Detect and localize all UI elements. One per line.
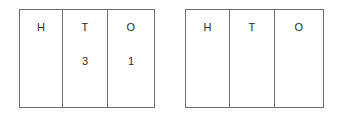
place-value-column-tens[interactable]: T 3 (63, 10, 108, 107)
place-value-column-ones[interactable]: O 1 (108, 10, 154, 107)
column-header-hundreds: H (37, 21, 45, 34)
column-header-tens: T (249, 21, 256, 34)
column-header-tens: T (82, 21, 89, 34)
column-header-ones: O (127, 21, 136, 34)
column-header-ones: O (295, 21, 304, 34)
place-value-column-hundreds[interactable]: H (20, 10, 63, 107)
place-value-column-tens[interactable]: T (230, 10, 275, 107)
place-value-worksheet: H T 3 O 1 H T O (0, 0, 338, 117)
digit-cell-ones[interactable]: 1 (128, 55, 134, 68)
column-header-hundreds: H (203, 21, 211, 34)
digit-cell-tens[interactable]: 3 (82, 55, 88, 68)
place-value-table-blank: H T O (185, 9, 324, 108)
place-value-column-ones[interactable]: O (275, 10, 323, 107)
place-value-column-hundreds[interactable]: H (186, 10, 230, 107)
place-value-table-filled: H T 3 O 1 (19, 9, 155, 108)
